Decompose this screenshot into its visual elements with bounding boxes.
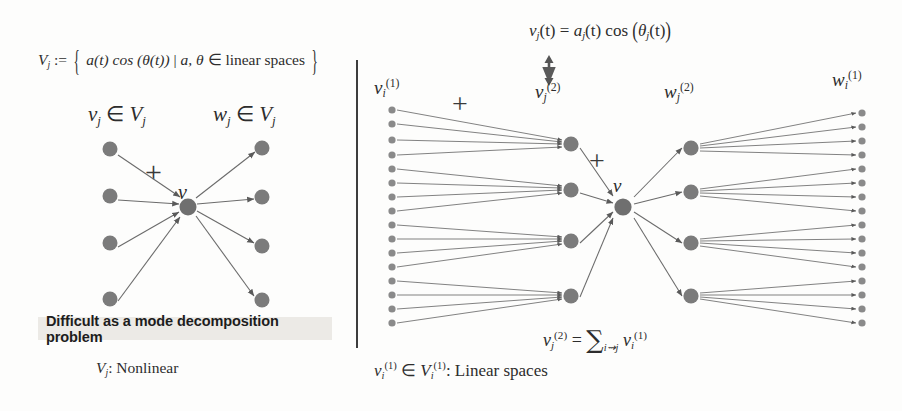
def-lhs-sub: j bbox=[47, 59, 50, 70]
right-leaf-to-mid-edges bbox=[397, 110, 562, 323]
callout-box: Difficult as a mode decomposition proble… bbox=[38, 317, 332, 340]
rt-paren-open: ( bbox=[632, 19, 638, 42]
right-mid-right-label: wj(2) bbox=[664, 82, 694, 101]
rf-sup: (1) bbox=[384, 360, 396, 371]
vj-member: ∈ bbox=[106, 102, 124, 126]
right-plus-right: + bbox=[589, 145, 605, 177]
right-output-label: wi(1) bbox=[832, 70, 862, 89]
right-input-label: vi(1) bbox=[374, 78, 399, 97]
right-input-leaf-nodes bbox=[388, 106, 395, 326]
left-output-node-1 bbox=[255, 141, 270, 156]
vj-space-sub: j bbox=[142, 113, 146, 128]
panel-divider bbox=[356, 60, 358, 348]
rf-base: v bbox=[374, 361, 382, 380]
se-sum-index: i⇝j bbox=[604, 343, 619, 353]
se-term: v bbox=[623, 330, 631, 350]
right-center-node-label: v bbox=[613, 176, 621, 195]
def-relation: := bbox=[54, 51, 67, 68]
ri-sup: (1) bbox=[386, 77, 400, 90]
left-output-node-4 bbox=[255, 293, 270, 308]
brace-close: } bbox=[311, 45, 317, 74]
right-center-node bbox=[614, 198, 631, 215]
rt-amp-arg: (t) bbox=[585, 21, 601, 40]
vj-sub: j bbox=[97, 113, 101, 128]
set-definition-formula: Vj := { a(t) cos (θ(t)) | a, θ ∈ linear … bbox=[38, 52, 320, 68]
def-separator: | bbox=[174, 51, 177, 68]
left-input-node-1 bbox=[103, 142, 118, 157]
wj-space: V bbox=[259, 102, 272, 126]
rt-lhs-arg: (t) bbox=[539, 21, 555, 40]
se-eq: = bbox=[572, 330, 582, 350]
left-output-space-label: wj ∈ Vj bbox=[213, 104, 276, 125]
left-input-space-label: vj ∈ Vj bbox=[88, 104, 146, 125]
wj-space-sub: j bbox=[272, 113, 276, 128]
rt-eq: = bbox=[560, 21, 570, 40]
right-mid-left-nodes bbox=[563, 136, 578, 303]
rt-amp: a bbox=[574, 21, 583, 40]
left-outgoing-edges bbox=[196, 152, 255, 296]
rf-space-sub: i bbox=[431, 370, 434, 381]
rf-sub: i bbox=[382, 370, 385, 381]
def-condition-vars: a, θ bbox=[181, 51, 204, 68]
def-condition-text: linear spaces bbox=[225, 51, 305, 68]
left-input-node-3 bbox=[103, 236, 118, 251]
ro-base: w bbox=[832, 69, 845, 90]
left-input-node-4 bbox=[103, 292, 118, 307]
figure-canvas: Vj := { a(t) cos (θ(t)) | a, θ ∈ linear … bbox=[0, 0, 902, 411]
vj-space: V bbox=[129, 102, 142, 126]
rf-member: ∈ bbox=[401, 361, 416, 380]
rf-space: V bbox=[420, 361, 430, 380]
ro-sup: (1) bbox=[848, 69, 862, 82]
left-input-nodes bbox=[103, 142, 118, 307]
left-input-node-2 bbox=[103, 189, 118, 204]
wj-base: w bbox=[213, 102, 227, 126]
def-member-symbol: ∈ bbox=[208, 51, 222, 68]
rmr-base: w bbox=[664, 81, 677, 102]
rt-paren-close: ) bbox=[665, 19, 671, 42]
left-plus-symbol: + bbox=[145, 155, 162, 189]
vj-base: v bbox=[88, 102, 97, 126]
rmr-sup: (2) bbox=[680, 81, 694, 94]
rf-space-sup: (1) bbox=[434, 360, 446, 371]
se-lhs: v bbox=[543, 330, 551, 350]
se-sum-symbol: ∑ bbox=[586, 325, 603, 354]
rt-cos: cos bbox=[605, 21, 628, 40]
right-plus-left: + bbox=[452, 88, 468, 120]
rf-text: : Linear spaces bbox=[446, 361, 548, 380]
se-term-sup: (1) bbox=[634, 329, 647, 341]
brace-open: { bbox=[74, 45, 80, 74]
right-footer-label: vi(1) ∈ Vi(1): Linear spaces bbox=[374, 362, 548, 379]
right-mid-to-leaf-edges bbox=[700, 113, 856, 323]
left-footer-text: : Nonlinear bbox=[108, 359, 178, 376]
left-output-node-2 bbox=[255, 190, 270, 205]
rt-theta-arg: (t) bbox=[649, 21, 665, 40]
left-center-node-label: v bbox=[178, 182, 187, 202]
rml-sup: (2) bbox=[547, 81, 561, 94]
left-footer-label: Vj: Nonlinear bbox=[96, 360, 178, 376]
right-mid-left-label: vj(2) bbox=[535, 82, 560, 101]
wj-sub: j bbox=[227, 113, 231, 128]
left-output-nodes bbox=[255, 141, 270, 308]
wj-member: ∈ bbox=[236, 102, 254, 126]
rt-lhs: v bbox=[529, 21, 537, 40]
def-body: a(t) cos (θ(t)) bbox=[86, 51, 169, 68]
right-output-leaf-nodes bbox=[858, 109, 865, 326]
right-center-to-mid-edges bbox=[634, 148, 682, 296]
callout-text: Difficult as a mode decomposition proble… bbox=[46, 313, 332, 345]
left-output-node-3 bbox=[255, 239, 270, 254]
right-mid-right-nodes bbox=[683, 140, 698, 303]
right-top-equation: vj(t) = aj(t) cos (θj(t)) bbox=[529, 22, 671, 39]
sum-equation: vj(2) = ∑i⇝j vi(1) bbox=[543, 326, 647, 353]
se-lhs-sup: (2) bbox=[554, 329, 567, 341]
